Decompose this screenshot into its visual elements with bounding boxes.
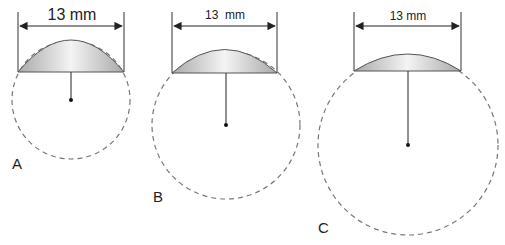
panel-a <box>12 12 130 159</box>
dimension-label-c: 13 mm <box>378 9 438 23</box>
cap-c <box>354 54 461 71</box>
panel-c <box>318 12 498 235</box>
cap-a <box>18 40 124 72</box>
panel-label-a: A <box>12 155 22 172</box>
dimension-label-a: 13 mm <box>40 6 104 24</box>
diagram-canvas <box>0 0 505 245</box>
panel-label-c: C <box>318 219 329 236</box>
dimension-label-b: 13 mm <box>195 8 255 22</box>
panel-label-b: B <box>153 188 163 205</box>
cap-b <box>172 50 277 74</box>
panel-b <box>152 12 300 199</box>
